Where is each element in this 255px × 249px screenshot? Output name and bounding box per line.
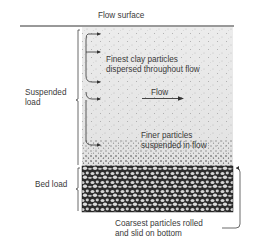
suspended-load-label: Suspended load bbox=[25, 88, 66, 108]
coarsest-particles-line1: Coarsest particles rolled bbox=[115, 219, 203, 229]
flow-label: Flow bbox=[151, 88, 168, 98]
coarsest-particles-label: Coarsest particles rolled and slid on bo… bbox=[115, 219, 203, 239]
bed-load-label: Bed load bbox=[35, 180, 67, 190]
finer-particles-label: Finer particles suspended in flow bbox=[141, 131, 207, 151]
suspended-load-bracket bbox=[76, 30, 80, 165]
bed-load-bracket bbox=[76, 168, 80, 211]
bed-load-region bbox=[82, 166, 233, 212]
suspended-load-label-line1: Suspended bbox=[25, 88, 66, 98]
sediment-diagram bbox=[0, 0, 255, 249]
coarsest-particles-line2: and slid on bottom bbox=[115, 229, 203, 239]
flow-surface-label: Flow surface bbox=[98, 11, 144, 21]
finest-particles-line1: Finest clay particles bbox=[106, 55, 200, 65]
suspended-load-label-line2: load bbox=[25, 98, 66, 108]
finer-particles-line1: Finer particles bbox=[141, 131, 207, 141]
finest-particles-label: Finest clay particles dispersed througho… bbox=[106, 55, 200, 75]
finer-particles-line2: suspended in flow bbox=[141, 141, 207, 151]
finest-particles-line2: dispersed throughout flow bbox=[106, 65, 200, 75]
